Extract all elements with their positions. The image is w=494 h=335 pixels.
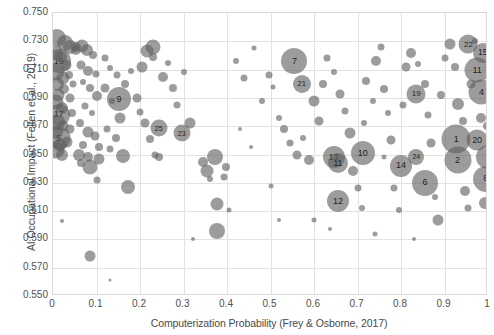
gridline-horizontal	[53, 126, 486, 127]
data-bubble	[406, 48, 416, 58]
data-bubble	[141, 119, 150, 128]
data-bubble	[56, 102, 68, 114]
data-bubble	[292, 150, 301, 159]
data-bubble	[259, 98, 265, 104]
data-bubble	[280, 125, 288, 133]
data-bubble-labeled: 2	[444, 147, 471, 174]
data-bubble	[222, 163, 230, 171]
data-bubble	[312, 217, 317, 222]
data-bubble	[476, 113, 486, 123]
data-bubble	[115, 112, 126, 123]
data-bubble	[427, 139, 436, 148]
data-bubble	[165, 60, 171, 66]
data-bubble	[95, 143, 103, 151]
data-bubble	[483, 122, 487, 130]
x-tick-label: 0.5	[250, 298, 290, 309]
bubble-label: 11	[472, 65, 481, 74]
data-bubble	[387, 136, 396, 145]
x-axis-title: Computerization Probability (Frey & Osbo…	[52, 317, 486, 329]
data-bubble-labeled: 6	[412, 170, 438, 196]
data-bubble	[472, 38, 478, 44]
data-bubble	[371, 56, 381, 66]
bubble-label: 9	[117, 95, 122, 104]
data-bubble	[90, 132, 99, 141]
x-tick-label: 1	[467, 298, 494, 309]
gridline-vertical	[401, 13, 402, 294]
x-tick-label: 0	[32, 298, 72, 309]
bubble-label: 2	[455, 156, 460, 165]
data-bubble	[451, 63, 459, 71]
data-bubble	[444, 39, 455, 50]
data-bubble	[152, 151, 159, 158]
data-bubble	[249, 145, 253, 149]
data-bubble	[421, 80, 429, 88]
data-bubble	[251, 46, 256, 51]
data-bubble	[432, 194, 438, 200]
data-bubble	[198, 157, 208, 167]
data-bubble	[121, 80, 129, 88]
data-bubble	[309, 95, 320, 106]
data-bubble	[79, 141, 87, 149]
data-bubble	[459, 117, 467, 125]
x-tick-label: 0.8	[380, 298, 420, 309]
data-bubble	[108, 279, 111, 282]
data-bubble-labeled: 20	[467, 130, 487, 151]
data-bubble-labeled: 8	[473, 166, 487, 192]
data-bubble	[56, 149, 68, 161]
y-axis-tick-labels: 0.7500.7300.7100.6900.6700.6500.6300.610…	[0, 0, 48, 335]
x-tick-label: 0.6	[293, 298, 333, 309]
data-bubble	[173, 101, 180, 108]
data-bubble	[92, 91, 102, 101]
y-tick-label: 0.650	[4, 149, 48, 159]
gridline-horizontal	[53, 211, 486, 212]
data-bubble	[233, 58, 239, 64]
bubble-label: 6	[422, 178, 427, 187]
data-bubble	[381, 155, 386, 160]
data-bubble-labeled: 11	[328, 153, 348, 173]
data-bubble	[128, 68, 134, 74]
data-bubble	[359, 205, 365, 211]
data-bubble	[89, 110, 95, 116]
bubble-label: 25	[155, 124, 163, 131]
data-bubble	[65, 125, 74, 134]
data-bubble	[361, 120, 367, 126]
x-tick-label: 0.3	[163, 298, 203, 309]
y-tick-label: 0.610	[4, 205, 48, 215]
data-bubble-labeled: 12	[327, 190, 349, 212]
bubble-label: 20	[472, 136, 482, 145]
data-bubble	[169, 84, 177, 92]
data-bubble	[76, 61, 85, 70]
data-bubble	[71, 42, 81, 52]
bubble-label: 11	[334, 159, 343, 168]
data-bubble	[89, 51, 97, 59]
data-bubble	[191, 237, 195, 241]
data-bubble	[268, 183, 273, 188]
data-bubble	[60, 219, 64, 223]
data-bubble	[402, 62, 411, 71]
gridline-vertical	[271, 13, 272, 294]
data-bubble	[348, 166, 358, 176]
data-bubble	[424, 111, 431, 118]
data-bubble-labeled: 7	[281, 48, 307, 74]
data-bubble	[112, 134, 120, 142]
data-bubble	[61, 136, 72, 147]
bubble-label: 15	[478, 48, 487, 57]
data-bubble	[92, 70, 99, 77]
data-bubble	[441, 55, 448, 62]
bubble-label: 10	[358, 149, 368, 158]
data-bubble	[300, 135, 306, 141]
data-bubble	[86, 84, 94, 92]
data-bubble	[61, 60, 72, 71]
data-bubble	[65, 71, 73, 79]
gridline-vertical	[227, 13, 228, 294]
gridline-vertical	[184, 13, 185, 294]
data-bubble	[107, 65, 113, 71]
data-bubble	[400, 101, 407, 108]
data-bubble	[412, 237, 416, 241]
x-tick-label: 0.7	[337, 298, 377, 309]
bubble-label: 1	[454, 134, 459, 143]
data-bubble	[102, 55, 109, 62]
data-bubble	[209, 223, 225, 239]
data-bubble	[101, 83, 110, 92]
data-bubble	[437, 91, 445, 99]
